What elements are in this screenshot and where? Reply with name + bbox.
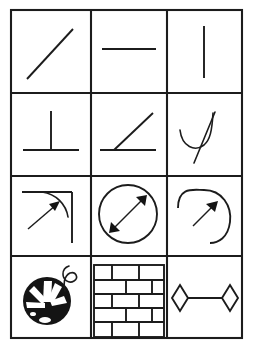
figure-canvas — [0, 0, 255, 352]
yarn-streak-7 — [30, 312, 36, 316]
yarn-streak-6 — [39, 317, 51, 323]
pictogram-grid-figure — [0, 0, 255, 352]
yarn-streak-5 — [26, 302, 45, 308]
